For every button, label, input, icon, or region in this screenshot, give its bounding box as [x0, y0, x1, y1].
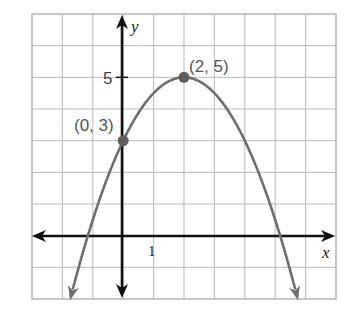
- y-tick-label-5: 5: [103, 69, 112, 88]
- y-axis-label: y: [129, 17, 139, 36]
- x-axis-label: x: [321, 243, 330, 262]
- x-tick-label-1: 1: [148, 243, 156, 259]
- data-point: [118, 135, 129, 146]
- point-label-0-3: (0, 3): [74, 116, 114, 135]
- point-label-2-5: (2, 5): [189, 57, 229, 76]
- coordinate-graph: y x 1 5 (0, 3) (2, 5): [0, 0, 356, 321]
- grid: [32, 14, 336, 299]
- data-point: [179, 72, 190, 83]
